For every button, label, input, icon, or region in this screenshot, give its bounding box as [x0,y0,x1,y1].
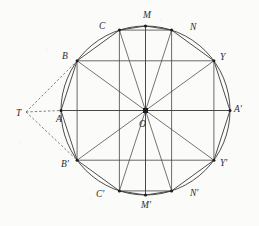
label-Y-prime: Y' [220,158,228,168]
point-labels: A'YNMCBAB'C'M'N'Y'OT [16,10,243,210]
label-A: A [55,114,62,124]
label-O: O [139,119,146,129]
geometry-diagram: A'YNMCBAB'C'M'N'Y'OT [0,0,259,226]
radius-B [77,61,145,111]
label-M-prime: M' [140,200,152,210]
figure-canvas: A'YNMCBAB'C'M'N'Y'OT [0,0,259,226]
polygon-edge-Y'-A' [214,111,230,161]
radius-N [146,30,172,110]
radius-Y [146,61,214,111]
label-A-prime: A' [233,104,243,114]
label-Y: Y [220,52,227,62]
label-M: M [142,10,152,20]
label-N: N [189,22,197,32]
label-C-prime: C' [96,189,105,199]
polygon-edge-A'-Y [214,61,230,111]
vertex-marker-Y [212,59,215,62]
radius-C [119,30,145,110]
polygon-edge-C-B [77,30,119,61]
label-B: B [62,51,68,61]
vertex-marker-N [170,29,173,32]
vertex-marker-Y-prime [212,159,215,162]
radius-B' [77,111,145,161]
T-to-B [26,61,77,112]
vertex-marker-B-prime [76,159,79,162]
radius-N' [146,111,172,191]
radius-Y' [146,111,214,161]
vertex-marker-N-prime [170,189,173,192]
polygon-edge-B'-C' [77,160,119,191]
label-B-prime: B' [61,159,70,169]
vertex-marker-C [118,29,121,32]
vertex-marker-A [60,109,63,112]
center-point-marker [143,108,148,113]
vertex-marker-A-prime [229,109,232,112]
label-C: C [99,21,106,31]
polygon-edge-N'-Y' [172,160,214,191]
vertex-marker-M-prime [144,194,147,197]
vertex-marker-M [144,25,147,28]
polygon-edge-Y-N [172,30,214,61]
vertex-marker-B [76,59,79,62]
label-T: T [16,108,22,118]
label-N-prime: N' [189,188,199,198]
T-to-A [26,111,61,113]
vertex-marker-C-prime [118,189,121,192]
polygon-edge-B-A [61,61,77,111]
